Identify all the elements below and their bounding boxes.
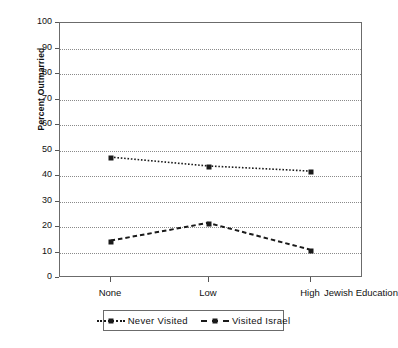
x-axis-title: Jewish Education [324,288,398,298]
legend-line-sample-never-visited [97,317,125,324]
y-tick-mark-0 [55,277,59,278]
y-tick-label-90: 90 [26,43,52,52]
legend-label-never-visited: Never Visited [128,315,188,326]
data-point-never-visited-high [309,170,314,175]
legend-entry-visited-israel[interactable]: Visited Israel [201,315,290,326]
data-point-never-visited-low [207,165,212,170]
y-tick-label-20: 20 [26,221,52,230]
data-point-visited-israel-none [109,240,114,245]
x-tick-label-low: Low [199,288,216,298]
plot-area [59,22,362,277]
legend-line-sample-visited-israel [201,317,229,324]
y-tick-label-10: 10 [26,247,52,256]
y-tick-label-30: 30 [26,196,52,205]
chart-legend: Never VisitedVisited Israel [103,310,284,331]
y-tick-label-60: 60 [26,119,52,128]
data-point-never-visited-none [109,156,114,161]
x-tick-mark-low [208,277,209,282]
legend-label-visited-israel: Visited Israel [232,315,290,326]
data-point-visited-israel-low [207,222,212,227]
y-tick-label-40: 40 [26,170,52,179]
y-tick-label-80: 80 [26,68,52,77]
x-tick-label-high: High [300,288,320,298]
series-layer [60,23,361,276]
y-tick-label-50: 50 [26,145,52,154]
legend-entry-never-visited[interactable]: Never Visited [97,315,188,326]
y-axis-title: Percent Outmarried [36,19,46,159]
y-tick-label-70: 70 [26,94,52,103]
y-tick-label-0: 0 [26,272,52,281]
x-tick-label-none: None [99,288,122,298]
y-tick-label-100: 100 [26,17,52,26]
x-tick-mark-high [310,277,311,282]
x-tick-mark-none [110,277,111,282]
data-point-visited-israel-high [309,249,314,254]
